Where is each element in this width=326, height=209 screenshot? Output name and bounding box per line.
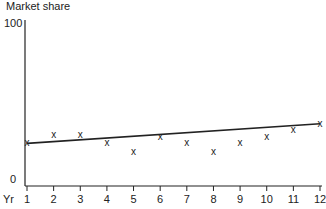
data-point-marker: x [158,131,163,142]
y-tick-0: 0 [10,173,16,185]
data-point-marker: x [318,118,323,129]
data-point-marker: x [78,129,83,140]
data-point-marker: x [264,131,269,142]
x-tick-label: 2 [51,193,57,205]
x-tick-label: 10 [261,193,273,205]
data-point-marker: x [25,137,30,148]
x-tick-label: 1 [24,193,30,205]
x-tick-label: 3 [77,193,83,205]
y-tick-100: 100 [4,17,22,29]
data-point-marker: x [238,137,243,148]
trend-line [27,124,320,144]
x-axis-label: Yr [3,193,14,205]
data-points: xxxxxxxxxxxx [25,118,323,157]
x-tick-label: 8 [210,193,216,205]
data-point-marker: x [51,129,56,140]
data-point-marker: x [211,146,216,157]
x-tick-label: 4 [104,193,110,205]
x-tick-label: 11 [288,193,299,205]
x-tick-label: 12 [314,193,326,205]
data-point-marker: x [104,137,109,148]
x-tick-label: 6 [157,193,163,205]
market-share-chart: Market share 100 0 123456789101112 Yr xx… [0,0,326,209]
data-point-marker: x [184,137,189,148]
y-axis-label: Market share [6,0,70,12]
x-tick-label: 7 [184,193,190,205]
x-ticks: 123456789101112 [24,186,326,205]
x-tick-label: 9 [237,193,243,205]
data-point-marker: x [291,124,296,135]
x-tick-label: 5 [130,193,136,205]
data-point-marker: x [131,146,136,157]
